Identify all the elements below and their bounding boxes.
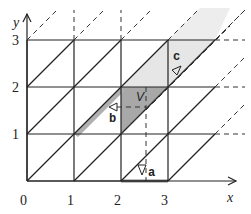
x-tick-1: 1 [67, 193, 74, 208]
label-b: b [109, 112, 116, 126]
lattice-diagram: 0 1 2 3 1 2 3 x y a b c V [0, 0, 251, 214]
shaded-cell-light-top [168, 8, 230, 40]
label-a: a [148, 166, 155, 180]
y-tick-1: 1 [12, 127, 19, 142]
label-v: V [136, 90, 145, 104]
shaded-band-b [74, 87, 125, 137]
x-axis [27, 177, 236, 185]
vector-a-arrow [138, 165, 146, 175]
y-tick-3: 3 [12, 33, 19, 48]
y-axis [23, 14, 31, 181]
x-tick-3: 3 [161, 193, 168, 208]
x-axis-label: x [226, 190, 234, 205]
x-tick-0: 0 [20, 193, 27, 208]
label-c: c [173, 50, 180, 64]
x-tick-2: 2 [114, 193, 121, 208]
y-tick-2: 2 [12, 80, 19, 95]
y-axis-label: y [11, 15, 20, 30]
horizontal-dashed-extensions [215, 40, 245, 134]
